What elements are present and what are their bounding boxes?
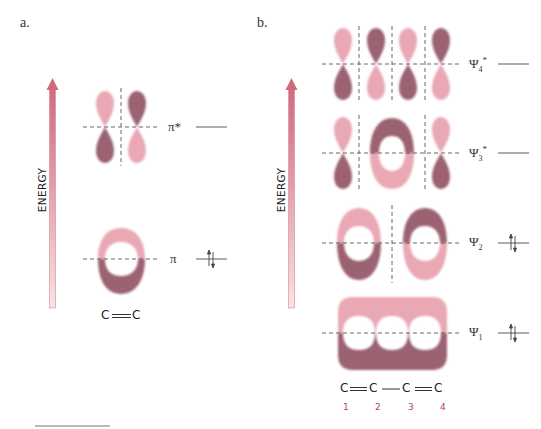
orbital-diagram: a. b. ENERGY ENERGY π* π C C Ψ4* Ψ3* Ψ2 … xyxy=(0,0,541,429)
level-label-pi-star: π* xyxy=(168,119,181,135)
energy-arrow-icon xyxy=(47,78,59,308)
energy-axis-label-b: ENERGY xyxy=(275,160,287,220)
atom-number-3: 3 xyxy=(408,402,414,412)
energy-axis-label-a: ENERGY xyxy=(36,160,48,220)
level-label-psi2: Ψ2 xyxy=(469,234,483,252)
atom-c4: C xyxy=(434,381,442,395)
atom-c2: C xyxy=(369,381,377,395)
energy-arrow-icon xyxy=(286,78,298,308)
energy-level-psi1 xyxy=(498,324,529,342)
level-label-pi: π xyxy=(170,251,177,267)
level-label-psi4-star: Ψ4* xyxy=(469,55,487,74)
diagram-canvas xyxy=(0,0,541,429)
energy-level-psi2 xyxy=(498,234,529,252)
atom-c3: C xyxy=(402,381,410,395)
butadiene-bonds-icon xyxy=(350,388,432,391)
atom-number-1: 1 xyxy=(343,402,349,412)
atom-number-4: 4 xyxy=(440,402,446,412)
panel-b-label: b. xyxy=(257,15,268,31)
pi-orbital xyxy=(98,228,145,294)
panel-b xyxy=(286,26,530,391)
double-bond-icon xyxy=(112,315,131,318)
panel-a-label: a. xyxy=(20,15,30,31)
atom-c-right: C xyxy=(132,308,140,322)
level-label-psi3-star: Ψ3* xyxy=(469,144,487,163)
atom-number-2: 2 xyxy=(375,402,381,412)
level-label-psi1: Ψ1 xyxy=(469,324,483,342)
panel-a xyxy=(47,78,228,318)
energy-level-pi xyxy=(196,250,227,268)
atom-c1: C xyxy=(340,381,348,395)
atom-c-left: C xyxy=(101,308,109,322)
